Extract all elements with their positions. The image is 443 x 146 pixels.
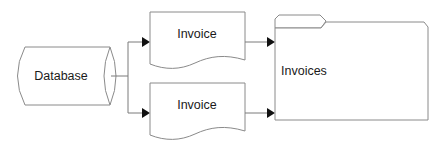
invoice-bottom-label: Invoice <box>177 98 217 112</box>
arrow-head-icon <box>142 37 150 47</box>
arrow-head-icon <box>267 37 275 47</box>
arrow-head-icon <box>267 108 275 118</box>
flow-diagram: Database Invoice Invoice Invoices <box>0 0 443 146</box>
invoices-folder[interactable]: Invoices <box>275 15 428 120</box>
arrow-head-icon <box>142 108 150 118</box>
database-label: Database <box>34 69 88 83</box>
database-node[interactable]: Database <box>18 47 117 105</box>
folder-label: Invoices <box>281 64 327 78</box>
invoice-top-label: Invoice <box>177 27 217 41</box>
invoice-document-top[interactable]: Invoice <box>150 12 245 68</box>
invoice-document-bottom[interactable]: Invoice <box>150 83 245 139</box>
